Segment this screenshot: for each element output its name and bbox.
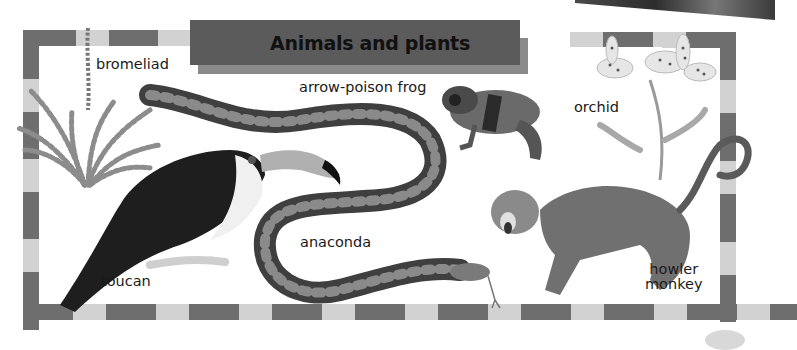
label-arrow-poison-frog: arrow-poison frog	[299, 80, 426, 95]
bromeliad-illustration	[18, 28, 160, 185]
label-howler-monkey: howler monkey	[645, 262, 703, 292]
label-orchid: orchid	[574, 100, 619, 115]
label-howler-monkey-line2: monkey	[645, 277, 703, 292]
label-bromeliad: bromeliad	[96, 57, 169, 72]
page-title: Animals and plants	[240, 32, 470, 54]
title-banner: Animals and plants	[190, 20, 520, 65]
label-anaconda: anaconda	[300, 235, 371, 250]
page-corner-shape	[705, 330, 745, 350]
label-howler-monkey-line1: howler	[645, 262, 703, 277]
arrow-poison-frog-illustration	[442, 86, 542, 160]
label-toucan: toucan	[101, 274, 151, 289]
howler-monkey-illustration	[491, 139, 748, 295]
